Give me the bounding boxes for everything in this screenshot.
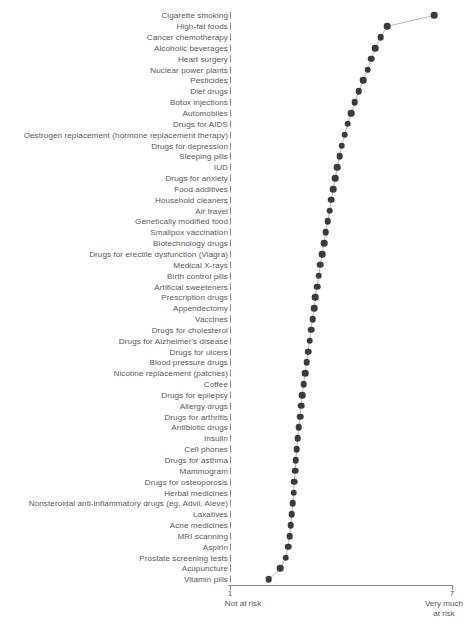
category-row: Vitamin pills (0, 574, 474, 585)
data-point (306, 337, 313, 344)
category-tick (230, 326, 231, 333)
category-label: Smallpox vaccination (150, 228, 228, 237)
category-row: Nicotine replacement (patches) (0, 368, 474, 379)
category-tick (230, 543, 231, 550)
category-label: Biotechnology drugs (153, 239, 228, 248)
category-label: Allergy drugs (180, 401, 228, 410)
category-row: Drugs for ulcers (0, 346, 474, 357)
category-tick (230, 131, 231, 138)
category-row: Smallpox vaccination (0, 227, 474, 238)
category-tick (230, 489, 231, 496)
category-row: Herbal medicines (0, 487, 474, 498)
data-point (302, 370, 309, 377)
category-label: Antibiotic drugs (171, 423, 228, 432)
category-row: Birth control pills (0, 270, 474, 281)
data-point (351, 99, 358, 106)
category-tick (230, 348, 231, 355)
category-tick (230, 142, 231, 149)
category-label: Heart surgery (178, 54, 228, 63)
data-point (293, 457, 300, 464)
category-row: Alcoholic beverages (0, 43, 474, 54)
data-point (348, 110, 355, 117)
category-label: Automobiles (183, 109, 228, 118)
data-point (282, 554, 289, 561)
category-tick (230, 88, 231, 95)
data-point (319, 251, 326, 258)
category-row: Blood pressure drugs (0, 357, 474, 368)
category-label: Artificial sweeteners (154, 282, 228, 291)
data-point (290, 489, 297, 496)
category-tick (230, 413, 231, 420)
category-tick (230, 218, 231, 225)
category-label: Laxatives (193, 510, 228, 519)
category-tick (230, 250, 231, 257)
category-label: Coffee (204, 380, 228, 389)
category-label: Acupuncture (182, 564, 228, 573)
category-row: Antibiotic drugs (0, 422, 474, 433)
category-tick (230, 294, 231, 301)
category-row: Drugs for asthma (0, 455, 474, 466)
category-tick (230, 240, 231, 247)
category-tick (230, 283, 231, 290)
category-label: Sleeping pills (179, 152, 228, 161)
category-label: Herbal medicines (164, 488, 228, 497)
category-tick (230, 185, 231, 192)
category-label: Drugs for asthma (165, 456, 228, 465)
category-label: Cancer chemotherapy (147, 33, 228, 42)
category-label: Diet drugs (190, 87, 228, 96)
category-row: Vaccines (0, 314, 474, 325)
data-point (290, 500, 297, 507)
category-label: Drugs for Alzheimer's disease (119, 336, 228, 345)
category-row: Medical X-rays (0, 259, 474, 270)
category-tick (230, 55, 231, 62)
x-axis-max-value: 7 (432, 589, 472, 598)
category-label: Cell phones (184, 445, 228, 454)
data-point (286, 533, 293, 540)
data-point (323, 229, 330, 236)
category-label: Household cleaners (155, 195, 228, 204)
category-tick (230, 110, 231, 117)
category-label: Drugs for cholesterol (152, 325, 228, 334)
category-label: Cigarette smoking (161, 11, 228, 20)
category-tick (230, 391, 231, 398)
category-label: Drugs for ulcers (170, 347, 228, 356)
category-tick (230, 467, 231, 474)
category-row: MRI scanning (0, 531, 474, 542)
category-label: Medical X-rays (173, 260, 228, 269)
category-label: Drugs for arthritis (164, 412, 228, 421)
data-point (305, 348, 312, 355)
data-point (296, 424, 303, 431)
category-label: Mammogram (180, 466, 228, 475)
category-row: Household cleaners (0, 194, 474, 205)
data-point (300, 381, 307, 388)
category-row: Oestrogen replacement (hormone replaceme… (0, 129, 474, 140)
category-row: Acne medicines (0, 520, 474, 531)
category-label: Nuclear power plants (150, 65, 228, 74)
category-row: Drugs for arthritis (0, 411, 474, 422)
category-tick (230, 261, 231, 268)
category-tick (230, 381, 231, 388)
category-row: Cell phones (0, 444, 474, 455)
category-row: Drugs for cholesterol (0, 324, 474, 335)
category-label: Prostate screening tests (139, 553, 228, 562)
data-point (312, 294, 319, 301)
category-row: Botox injections (0, 97, 474, 108)
data-point (298, 403, 305, 410)
category-label: Air travel (195, 206, 228, 215)
data-point (303, 359, 310, 366)
category-row: Insulin (0, 433, 474, 444)
category-label: Oestrogen replacement (hormone replaceme… (24, 130, 228, 139)
category-row: Biotechnology drugs (0, 238, 474, 249)
data-point (293, 446, 300, 453)
data-point (317, 262, 324, 269)
x-axis-max-caption-line2: at risk (415, 609, 473, 619)
data-point (266, 576, 273, 583)
category-tick (230, 272, 231, 279)
risk-perception-dot-plot: Cigarette smokingHigh-fat foodsCancer ch… (0, 0, 474, 629)
category-row: Diet drugs (0, 86, 474, 97)
category-tick (230, 164, 231, 171)
category-label: Genetically modified food (135, 217, 228, 226)
data-point (285, 543, 292, 550)
category-tick (230, 478, 231, 485)
category-label: Blood pressure drugs (149, 358, 228, 367)
